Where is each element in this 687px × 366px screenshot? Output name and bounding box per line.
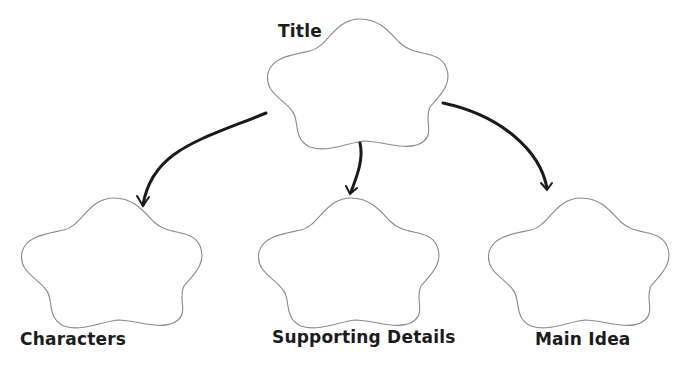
supporting-details-label: Supporting Details — [272, 327, 456, 347]
characters-label: Characters — [20, 329, 126, 349]
arrow-to-main-idea — [443, 103, 552, 190]
cloud-characters — [21, 198, 202, 328]
cloud-main-idea — [488, 198, 669, 328]
arrow-to-supporting-details — [346, 143, 361, 194]
cloud-supporting-details — [258, 198, 439, 328]
arrow-to-characters — [137, 113, 266, 206]
title-label: Title — [278, 21, 322, 41]
main-idea-label: Main Idea — [535, 329, 631, 349]
diagram-canvas — [0, 0, 687, 366]
